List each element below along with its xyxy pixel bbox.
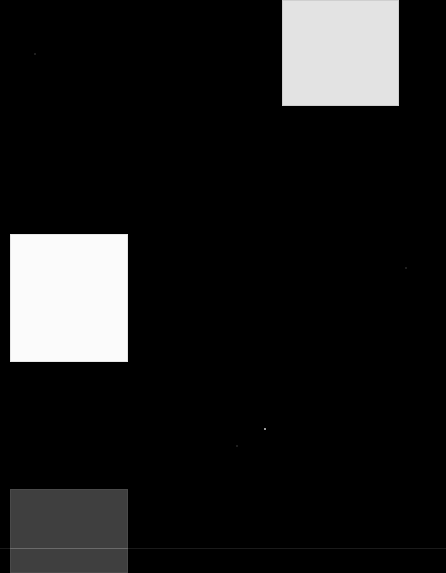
faint-speck (405, 267, 407, 269)
dark-canvas (0, 0, 446, 573)
bright-dot-marker (264, 428, 266, 430)
faint-speck (34, 53, 36, 55)
light-gray-tile[interactable] (282, 0, 399, 106)
faint-speck (236, 445, 238, 447)
white-tile[interactable] (10, 234, 128, 362)
divider-highlight-segment (10, 548, 128, 549)
dark-gray-tile[interactable] (10, 489, 128, 573)
